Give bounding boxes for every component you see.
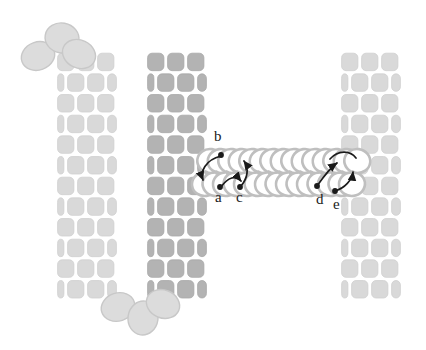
wall-brick: [98, 53, 114, 70]
label-dot-b: [218, 152, 224, 158]
wall-brick: [88, 74, 104, 91]
wall-brick: [198, 281, 207, 298]
wall-brick: [148, 260, 164, 277]
left-wall: [58, 53, 117, 298]
wall-brick: [188, 53, 204, 70]
wall-brick: [198, 115, 207, 132]
wall-brick: [98, 95, 114, 112]
wall-brick: [88, 157, 104, 174]
wall-brick: [178, 239, 194, 256]
wall-brick: [372, 239, 388, 256]
wall-brick: [168, 260, 184, 277]
wall-brick: [178, 115, 194, 132]
wall-brick: [342, 239, 348, 256]
wall-brick: [78, 95, 94, 112]
wall-brick: [68, 281, 84, 298]
wall-brick: [88, 239, 104, 256]
wall-brick: [168, 136, 184, 153]
wall-brick: [98, 136, 114, 153]
wall-brick: [352, 198, 368, 215]
wall-brick: [382, 95, 398, 112]
wall-brick: [372, 198, 388, 215]
wall-brick: [178, 198, 194, 215]
wall-brick: [158, 115, 174, 132]
diagram-svg: [0, 0, 426, 350]
wall-brick: [148, 95, 164, 112]
wall-brick: [168, 53, 184, 70]
wall-brick: [392, 198, 401, 215]
wall-brick: [148, 74, 154, 91]
wall-brick: [68, 74, 84, 91]
wall-brick: [342, 53, 358, 70]
wall-brick: [58, 281, 64, 298]
wall-brick: [372, 157, 388, 174]
wall-brick: [372, 74, 388, 91]
wall-brick: [148, 115, 154, 132]
wall-brick: [352, 281, 368, 298]
wall-brick: [58, 136, 74, 153]
wall-brick: [382, 260, 398, 277]
label-dot-e: [332, 188, 338, 194]
wall-brick: [148, 198, 154, 215]
label-dot-d: [314, 183, 320, 189]
wall-brick: [108, 198, 117, 215]
wall-brick: [352, 115, 368, 132]
wall-brick: [342, 95, 358, 112]
wall-brick: [88, 281, 104, 298]
wall-brick: [68, 115, 84, 132]
wall-brick: [342, 219, 358, 236]
label-d: d: [316, 192, 324, 207]
wall-brick: [148, 177, 164, 194]
label-b: b: [214, 129, 222, 144]
wall-brick: [148, 219, 164, 236]
wall-brick: [148, 136, 164, 153]
wall-brick: [78, 219, 94, 236]
wall-brick: [342, 260, 358, 277]
wall-brick: [168, 95, 184, 112]
wall-brick: [58, 260, 74, 277]
wall-brick: [178, 281, 194, 298]
wall-brick: [158, 239, 174, 256]
wall-brick: [58, 157, 64, 174]
wall-brick: [148, 239, 154, 256]
wall-brick: [68, 198, 84, 215]
wall-brick: [158, 74, 174, 91]
wall-brick: [168, 219, 184, 236]
wall-brick: [78, 260, 94, 277]
wall-brick: [78, 177, 94, 194]
wall-brick: [392, 157, 401, 174]
wall-brick: [188, 219, 204, 236]
wall-brick: [382, 177, 398, 194]
wall-brick: [178, 74, 194, 91]
wall-brick: [58, 177, 74, 194]
wall-brick: [342, 74, 348, 91]
wall-brick: [98, 219, 114, 236]
wall-brick: [158, 157, 174, 174]
wall-brick: [198, 74, 207, 91]
wall-brick: [352, 74, 368, 91]
wall-brick: [108, 239, 117, 256]
wall-brick: [198, 198, 207, 215]
wall-brick: [188, 260, 204, 277]
wall-brick: [382, 53, 398, 70]
wall-brick: [58, 239, 64, 256]
wall-brick: [88, 115, 104, 132]
wall-brick: [362, 95, 378, 112]
wall-brick: [178, 157, 194, 174]
wall-brick: [198, 239, 207, 256]
wall-brick: [362, 53, 378, 70]
wall-brick: [108, 74, 117, 91]
label-e: e: [333, 197, 340, 212]
wall-brick: [58, 115, 64, 132]
wall-brick: [188, 95, 204, 112]
wall-brick: [392, 115, 401, 132]
wall-brick: [352, 239, 368, 256]
wall-brick: [392, 281, 401, 298]
wall-brick: [108, 115, 117, 132]
wall-brick: [362, 219, 378, 236]
wall-brick: [68, 239, 84, 256]
wall-brick: [342, 115, 348, 132]
wall-brick: [362, 260, 378, 277]
wall-brick: [108, 157, 117, 174]
wall-brick: [58, 219, 74, 236]
